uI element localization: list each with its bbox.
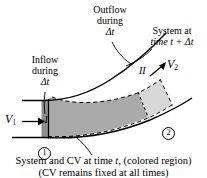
- velocity-out-arrow-head: [159, 62, 166, 70]
- caption-line1-part2: , (colored region): [118, 155, 191, 166]
- velocity-out-label: V2: [167, 58, 178, 72]
- figure-caption-line2: (CV remains fixed at all times): [0, 167, 207, 178]
- leader-line-outflow: [112, 42, 131, 64]
- inflow-label-line1: Inflow: [20, 54, 70, 65]
- inflow-label-line3: Δt: [20, 76, 70, 87]
- system-at-time-label: System at time t + Δt: [140, 25, 204, 47]
- figure-caption: System and CV at time t, (colored region…: [0, 155, 207, 178]
- figure-caption-line1: System and CV at time t, (colored region…: [0, 155, 207, 167]
- region-ii-label: II: [139, 65, 146, 76]
- outflow-label-line1: Outflow: [84, 4, 136, 15]
- inflow-label: Inflow during Δt: [20, 54, 70, 88]
- station-two-marker: 2: [162, 121, 175, 140]
- inflow-label-line2: during: [20, 65, 70, 76]
- control-volume-figure: Inflow during Δt Outflow during Δt Syste…: [0, 0, 207, 178]
- region-i-label: I: [45, 114, 48, 125]
- outflow-label-line2: during: [84, 15, 136, 26]
- caption-line1-part1: System and CV at time: [16, 155, 116, 166]
- outflow-label-line3: Δt: [84, 26, 136, 37]
- leader-line-caption: [76, 137, 92, 155]
- velocity-out-arrow-shaft: [150, 67, 161, 76]
- system-at-time-line2: time t + Δt: [140, 36, 204, 47]
- velocity-out-subscript: 2: [174, 63, 178, 72]
- velocity-in-subscript: 1: [12, 118, 16, 127]
- outflow-label: Outflow during Δt: [84, 4, 136, 38]
- system-at-time-line1: System at: [140, 25, 204, 36]
- velocity-in-label: V1: [5, 113, 16, 127]
- station-two-number: 2: [162, 127, 175, 140]
